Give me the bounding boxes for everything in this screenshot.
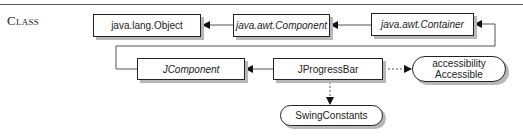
node-label: java.awt.Component bbox=[236, 20, 327, 31]
node-label: JProgressBar bbox=[298, 64, 359, 75]
node-swingconstants: SwingConstants bbox=[280, 105, 383, 126]
node-jprogressbar: JProgressBar bbox=[273, 58, 383, 80]
node-label: java.awt.Container bbox=[381, 19, 464, 30]
node-label: JComponent bbox=[163, 64, 220, 75]
node-label-name: Accessible bbox=[435, 69, 483, 80]
node-jcomponent: JComponent bbox=[137, 58, 245, 80]
node-java-awt-component: java.awt.Component bbox=[233, 14, 330, 37]
node-java-lang-object: java.lang.Object bbox=[93, 14, 201, 37]
node-label: java.lang.Object bbox=[111, 20, 183, 31]
node-label: SwingConstants bbox=[295, 110, 367, 121]
node-java-awt-container: java.awt.Container bbox=[371, 13, 474, 36]
node-accessibility-accessible: accessibility Accessible bbox=[412, 56, 506, 82]
node-label-package: accessibility bbox=[432, 58, 485, 69]
